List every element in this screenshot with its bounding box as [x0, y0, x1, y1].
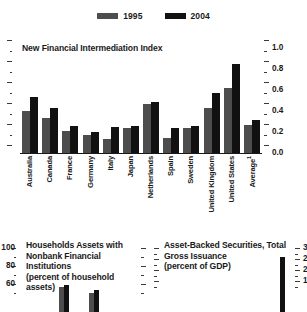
bl-bar-group [49, 238, 80, 312]
bar-2004-netherlands [151, 102, 159, 153]
y-tick-major [7, 103, 12, 104]
y-tick-major [264, 82, 269, 83]
x-axis-baseline [20, 153, 262, 154]
br-y-tick-major [295, 270, 300, 271]
bar-group [81, 48, 101, 153]
br-bar-2004 [280, 257, 285, 312]
bar-group [222, 48, 242, 153]
x-label-average: Average1 [247, 156, 256, 188]
y-tick-minor [10, 135, 13, 136]
br-y-tick-label: 20 [303, 266, 307, 274]
x-label-united-kingdom: United Kingdom [208, 156, 216, 213]
x-label-slot: Average1 [242, 156, 262, 216]
y-tick-minor [10, 93, 13, 94]
y-tick-minor [10, 72, 13, 73]
bar-1995-italy [103, 139, 111, 153]
y-tick-label: 0.2 [272, 128, 283, 136]
bar-2004-united-kingdom [212, 93, 220, 153]
y-tick-minor [10, 114, 13, 115]
x-label-slot: United States [222, 156, 242, 216]
x-axis-category-labels: AustraliaCanadaFranceGermanyItalyJapanNe… [20, 156, 262, 218]
legend-swatch-2004 [165, 13, 186, 19]
bl-y-tick-minor [141, 257, 144, 258]
br-y-tick-major [295, 248, 300, 249]
plot-area-bottom-right [156, 238, 294, 312]
bar-1995-spain [163, 138, 171, 153]
x-label-spain: Spain [167, 156, 175, 176]
x-label-japan: Japan [127, 156, 135, 177]
x-label-united-states: United States [228, 156, 236, 203]
x-label-sweden: Sweden [188, 156, 196, 184]
x-label-slot: Germany [81, 156, 101, 216]
y-tick-minor [264, 135, 267, 136]
y-tick-major [7, 82, 12, 83]
bar-1995-france [62, 131, 70, 153]
y-tick-major [264, 124, 269, 125]
legend-label-1995: 1995 [123, 12, 142, 21]
bar-1995-netherlands [143, 104, 151, 153]
br-y-tick-label: 15 [303, 277, 307, 285]
bar-2004-japan [131, 126, 139, 153]
y-tick-major [7, 145, 12, 146]
bar-1995-united-states [224, 88, 232, 153]
br-y-tick-minor [295, 276, 298, 277]
chart-legend: 1995 2004 [0, 8, 307, 24]
br-y-tick-minor [295, 287, 298, 288]
bl-bar-group [79, 238, 110, 312]
bar-1995-canada [42, 118, 50, 153]
y-tick-major [264, 103, 269, 104]
x-label-slot: Japan [121, 156, 141, 216]
x-label-slot: United Kingdom [202, 156, 222, 216]
bl-y-tick-minor [14, 293, 17, 294]
bar-group [141, 48, 161, 153]
x-label-slot: Netherlands [141, 156, 161, 216]
y-tick-minor [10, 51, 13, 52]
y-tick-label: 0.8 [272, 65, 283, 73]
bl-y-tick-major [141, 266, 146, 267]
x-label-slot: Spain [161, 156, 181, 216]
bl-y-tick-minor [14, 275, 17, 276]
bar-1995-united-kingdom [204, 108, 212, 153]
x-label-slot: Australia [20, 156, 40, 216]
br-y-tick-label: 25 [303, 255, 307, 263]
x-label-netherlands: Netherlands [147, 156, 155, 198]
y-tick-minor [264, 93, 267, 94]
bl-y-tick-label: 80 [6, 262, 15, 270]
x-label-slot: Italy [101, 156, 121, 216]
legend-entry-1995: 1995 [97, 12, 142, 21]
panel-asset-backed-securities: Asset-Backed Securities, TotalGross Issu… [152, 238, 307, 312]
bar-group [161, 48, 181, 153]
bar-2004-united-states [232, 64, 240, 153]
x-label-germany: Germany [87, 156, 95, 188]
bar-group [121, 48, 141, 153]
y-tick-major [7, 61, 12, 62]
bl-bar-2004 [94, 290, 99, 312]
bl-y-tick-label: 60 [6, 280, 15, 288]
plot-area-bottom-left [18, 238, 140, 312]
panel-new-financial-intermediation-index: New Financial Intermediation Index 0.00.… [0, 40, 307, 220]
panel-household-assets-nonbank: Households Assets withNonbank FinancialI… [0, 238, 152, 312]
bar-group [40, 48, 60, 153]
bar-group [202, 48, 222, 153]
bar-1995-japan [123, 128, 131, 153]
x-label-slot: Sweden [181, 156, 201, 216]
x-label-france: France [67, 156, 75, 180]
br-y-tick-major [295, 281, 300, 282]
bar-1995-sweden [183, 128, 191, 153]
bar-2004-sweden [191, 126, 199, 153]
x-label-canada: Canada [46, 156, 54, 183]
y-tick-minor [264, 114, 267, 115]
bl-y-tick-minor [14, 257, 17, 258]
y-tick-label: 0.0 [272, 149, 283, 157]
bl-y-tick-minor [141, 293, 144, 294]
bar-2004-france [70, 126, 78, 153]
bl-y-tick-major [141, 284, 146, 285]
bar-2004-australia [30, 97, 38, 153]
legend-swatch-1995 [97, 13, 118, 19]
bl-y-tick-minor [141, 275, 144, 276]
bar-group [101, 48, 121, 153]
br-y-tick-label: 30 [303, 244, 307, 252]
y-tick-label: 0.6 [272, 86, 283, 94]
bl-bar-group [18, 238, 49, 312]
plot-area-main [20, 48, 262, 153]
